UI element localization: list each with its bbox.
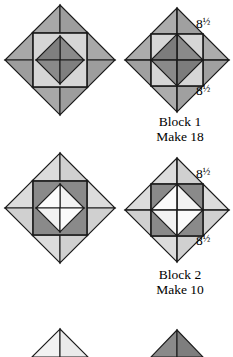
block-2-top-triangle-right: [60, 153, 88, 181]
block-3-assembled-corner-north-west: [151, 330, 177, 357]
block-1-dimension-bottom-fraction: ½: [203, 83, 210, 94]
block-1-top-triangle-left: [32, 5, 60, 33]
block-1-bottom-triangle-group: [32, 87, 88, 115]
block-1-assembled-corner-west-south: [125, 60, 151, 86]
block-3-assembled-svg: [125, 296, 233, 357]
block-2-dimension-bottom-value: 8: [196, 233, 203, 248]
block-2-top-triangle-left: [32, 153, 60, 181]
block-1-bottom-triangle-left: [32, 87, 60, 115]
block-1-exploded-svg: [0, 0, 120, 120]
block-2-assembled-corner-west-north: [125, 184, 151, 210]
block-3-exploded-diagram-partial: [0, 296, 120, 357]
block-2-bottom-triangle-right: [60, 235, 88, 263]
block-1-assembled-corner-east-north: [203, 34, 229, 60]
block-1-assembled-corner-west-north: [125, 34, 151, 60]
block-2-right-triangle-group: [87, 180, 115, 236]
block-2-right-triangle-top: [87, 180, 115, 208]
block-2-assembled-svg: [125, 152, 233, 264]
block-2-assembled-diagram: [125, 152, 233, 264]
block-1-bottom-triangle-right: [60, 87, 88, 115]
quilt-diagram-sheet: 8½ 8½ Block 1 Make 18: [0, 0, 233, 357]
block-2-assembled-corner-east-north: [203, 184, 229, 210]
block-1-dimension-bottom: 8½: [196, 84, 210, 98]
block-1-left-triangle-group: [5, 32, 33, 88]
block-1-caption-make: Make 18: [133, 130, 227, 145]
block-3-assembled-corner-north-east: [177, 330, 203, 357]
block-2-left-triangle-bottom: [5, 208, 33, 236]
block-1-assembled-diagram: [125, 2, 233, 114]
block-2-dimension-bottom: 8½: [196, 234, 210, 248]
block-3-top-triangle-left: [32, 329, 60, 357]
block-1-assembled-svg: [125, 2, 233, 114]
block-1-assembled-corner-north-west: [151, 8, 177, 34]
block-3-top-triangle-right: [60, 329, 88, 357]
block-2-dimension-top-value: 8: [196, 166, 203, 181]
block-1-dimension-bottom-value: 8: [196, 83, 203, 98]
block-2-left-triangle-top: [5, 180, 33, 208]
block-1-dimension-top-value: 8: [196, 16, 203, 31]
block-2-left-triangle-group: [5, 180, 33, 236]
block-2-assembled-corner-west-south: [125, 210, 151, 236]
block-2-caption-make: Make 10: [133, 283, 227, 298]
block-1-right-triangle-group: [87, 32, 115, 88]
block-1-dimension-top: 8½: [196, 17, 210, 31]
block-2-center-square-unit: [33, 181, 87, 235]
block-2-assembled-corner-north-west: [151, 158, 177, 184]
block-2-dimension-top: 8½: [196, 167, 210, 181]
block-1-top-triangle-right: [60, 5, 88, 33]
block-1-left-triangle-top: [5, 32, 33, 60]
block-2-exploded-svg: [0, 148, 120, 268]
block-2-right-triangle-bottom: [87, 208, 115, 236]
block-1-caption-title: Block 1: [133, 115, 227, 130]
block-2-bottom-triangle-left: [32, 235, 60, 263]
block-2-dimension-top-fraction: ½: [203, 166, 210, 177]
block-3-exploded-svg: [0, 296, 120, 357]
block-2-dimension-bottom-fraction: ½: [203, 233, 210, 244]
block-1-right-triangle-bottom: [87, 60, 115, 88]
block-2-assembled-corner-south-west: [151, 236, 177, 262]
block-2-caption: Block 2 Make 10: [133, 268, 227, 297]
block-1-top-triangle-group: [32, 5, 88, 33]
block-2-top-triangle-group: [32, 153, 88, 181]
block-1-dimension-top-fraction: ½: [203, 16, 210, 27]
block-1-caption: Block 1 Make 18: [133, 115, 227, 144]
block-1-exploded-diagram: [0, 0, 120, 120]
block-3-assembled-diagram-partial: [125, 296, 233, 357]
block-1-assembled-corner-south-west: [151, 86, 177, 112]
block-1-center-square-unit: [33, 33, 87, 87]
block-2-bottom-triangle-group: [32, 235, 88, 263]
block-2-caption-title: Block 2: [133, 268, 227, 283]
block-1-left-triangle-bottom: [5, 60, 33, 88]
block-2-exploded-diagram: [0, 148, 120, 268]
block-1-right-triangle-top: [87, 32, 115, 60]
